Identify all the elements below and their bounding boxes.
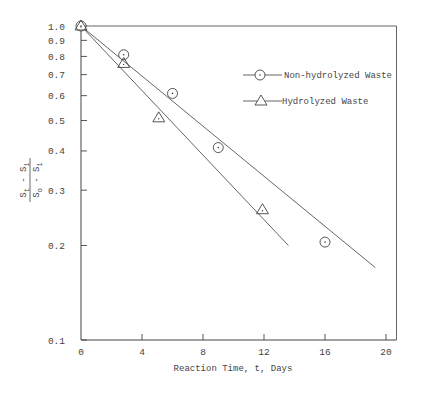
fit-lines bbox=[81, 26, 375, 268]
x-tick-label: 12 bbox=[258, 347, 270, 358]
y-tick-label: 0.4 bbox=[48, 146, 65, 157]
triangle-marker-icon bbox=[255, 95, 267, 105]
data-points bbox=[75, 20, 330, 247]
reaction-time-chart: 1.00.90.80.70.60.50.40.30.20.1 048121620… bbox=[0, 0, 437, 397]
x-tick-label: 0 bbox=[78, 347, 84, 358]
y-axis-title: St - Si So - Si bbox=[19, 158, 44, 202]
legend: Non-hydrolyzed Waste Hydrolyzed Waste bbox=[243, 70, 392, 107]
y-tick-label: 0.7 bbox=[48, 70, 65, 81]
legend-label: Non-hydrolyzed Waste bbox=[284, 71, 392, 81]
y-tick-label: 0.6 bbox=[48, 91, 65, 102]
y-axis-title-denominator: So - Si bbox=[32, 162, 44, 197]
x-tick-label: 16 bbox=[319, 347, 331, 358]
y-tick-label: 0.3 bbox=[48, 186, 65, 197]
y-tick-label: 0.8 bbox=[48, 52, 65, 63]
fit-line bbox=[81, 26, 375, 268]
x-tick-label: 4 bbox=[139, 347, 145, 358]
x-tick-label: 8 bbox=[200, 347, 206, 358]
x-tick-label: 20 bbox=[380, 347, 392, 358]
x-axis-title: Reaction Time, t, Days bbox=[174, 364, 293, 374]
y-axis-title-numerator: St - Si bbox=[19, 162, 31, 197]
y-tick-label: 0.9 bbox=[48, 36, 65, 47]
data-point-triangle bbox=[256, 204, 268, 214]
x-axis: 048121620 bbox=[78, 334, 392, 358]
y-tick-label: 1.0 bbox=[48, 22, 65, 33]
y-tick-label: 0.1 bbox=[48, 336, 65, 347]
y-tick-label: 0.5 bbox=[48, 116, 65, 127]
legend-label: Hydrolyzed Waste bbox=[282, 97, 368, 107]
legend-item-hydrolyzed: Hydrolyzed Waste bbox=[243, 95, 368, 107]
y-tick-label: 0.2 bbox=[48, 241, 65, 252]
legend-item-non-hydrolyzed: Non-hydrolyzed Waste bbox=[243, 70, 392, 81]
